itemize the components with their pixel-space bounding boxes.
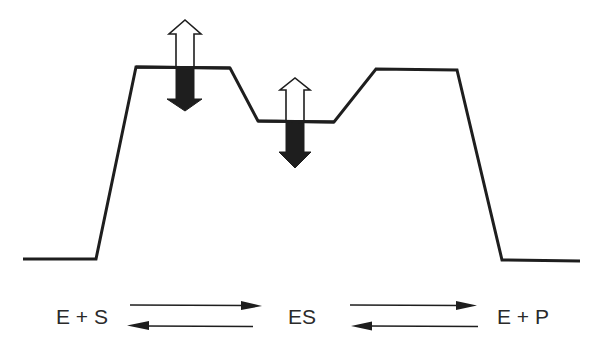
es-level-line (258, 121, 334, 122)
down-arrow-icon (279, 121, 311, 168)
energy-diagram: E + S ES E + P (0, 0, 594, 347)
equilibrium-arrows-2 (350, 301, 478, 331)
forward-arrow-line (130, 305, 245, 306)
reverse-arrowhead-icon (127, 321, 149, 330)
up-arrow-icon (280, 78, 310, 121)
down-arrow-icon (167, 67, 202, 111)
forward-arrowhead-icon (456, 301, 477, 310)
state-label-products: E + P (497, 305, 549, 328)
state-label-complex: ES (288, 305, 316, 328)
reverse-arrow-line (145, 326, 253, 327)
reverse-arrow-line (368, 326, 478, 327)
reverse-arrowhead-icon (351, 322, 372, 331)
forward-arrow-line (350, 305, 460, 306)
forward-arrowhead-icon (241, 301, 262, 310)
equilibrium-arrows-1 (127, 301, 262, 330)
ts1-level-line (136, 67, 230, 68)
up-arrow-icon (169, 20, 201, 67)
ts1-arrow-group (167, 20, 202, 111)
state-label-reactants: E + S (56, 305, 108, 328)
